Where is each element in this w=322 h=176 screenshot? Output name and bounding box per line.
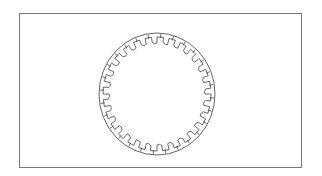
outer-ring (99, 33, 215, 155)
cage-segments (100, 34, 214, 154)
cage-segment-outline (100, 34, 214, 154)
ring-drawing (0, 0, 322, 176)
